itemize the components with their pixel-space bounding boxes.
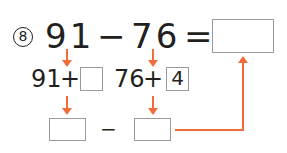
arrow-up-connector-icon	[175, 62, 243, 130]
arrows-layer	[0, 0, 287, 153]
